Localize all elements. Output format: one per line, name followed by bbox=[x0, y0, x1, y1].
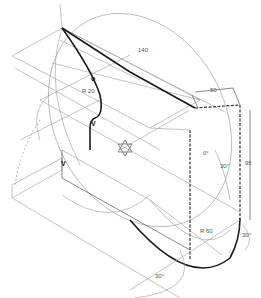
construction-line bbox=[62, 28, 225, 112]
construction-line bbox=[130, 220, 240, 290]
box-edge bbox=[12, 198, 180, 298]
arc-inner bbox=[62, 195, 150, 213]
dim-line bbox=[233, 88, 240, 105]
profile-edge bbox=[130, 72, 195, 108]
dim-140: 140 bbox=[138, 47, 149, 53]
construction-arc bbox=[37, 95, 50, 140]
profile-edge bbox=[62, 28, 130, 72]
angle-arc bbox=[215, 150, 230, 200]
dim-95: 95 bbox=[245, 160, 252, 166]
dim-r60: R 60 bbox=[200, 228, 213, 234]
marker-o: o bbox=[91, 75, 95, 82]
step-edge bbox=[195, 105, 240, 108]
dim-r20: R 20 bbox=[82, 88, 95, 94]
dim-angle-2: 30° bbox=[242, 232, 252, 238]
construction-line bbox=[60, 4, 62, 28]
construction-line bbox=[15, 68, 160, 150]
construction-line bbox=[20, 100, 100, 140]
construction-line bbox=[60, 40, 140, 80]
dim-50: 50 bbox=[210, 87, 217, 93]
dim-angle-0: 0° bbox=[203, 150, 209, 156]
box-edge bbox=[62, 150, 150, 200]
top-plane bbox=[12, 28, 200, 128]
construction-line bbox=[40, 100, 240, 212]
marker-v2: V bbox=[61, 160, 66, 167]
dim-angle-1: 30° bbox=[220, 163, 230, 169]
technical-drawing: 140 50 95 R 20 R 60 30° 30° 30° 0° o V V bbox=[0, 0, 261, 298]
dim-angle-3: 30° bbox=[155, 273, 165, 279]
box-arc bbox=[15, 120, 40, 185]
marker-v1: V bbox=[91, 120, 96, 127]
